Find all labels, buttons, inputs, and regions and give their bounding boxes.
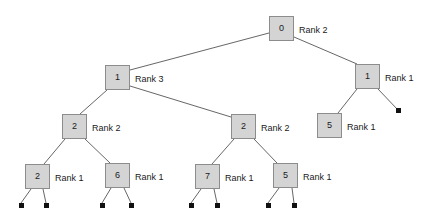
node-key: 2	[72, 122, 77, 131]
tree-node[interactable]: 1	[355, 64, 380, 89]
node-key: 2	[241, 122, 246, 131]
tree-edge	[191, 189, 201, 203]
node-key: 5	[327, 121, 332, 130]
tree-node[interactable]: 7	[195, 164, 220, 189]
leaf-node	[189, 203, 194, 208]
leaf-node	[396, 108, 401, 113]
node-key: 2	[35, 172, 40, 181]
tree-node[interactable]: 2	[25, 164, 50, 189]
tree-edge	[292, 188, 294, 203]
tree-edge	[254, 139, 277, 163]
node-key: 6	[115, 171, 120, 180]
tree-edge	[294, 37, 357, 64]
node-key: 1	[365, 72, 370, 81]
node-rank-label: Rank 2	[299, 26, 328, 35]
node-rank-label: Rank 2	[261, 124, 290, 133]
tree-edge	[124, 188, 131, 203]
tree-edge	[338, 89, 357, 113]
leaf-node	[19, 203, 24, 208]
tree-node[interactable]: 2	[231, 114, 256, 139]
tree-node[interactable]: 5	[273, 163, 298, 188]
leaf-node	[215, 203, 220, 208]
node-key: 5	[283, 171, 288, 180]
node-rank-label: Rank 1	[225, 174, 254, 183]
node-rank-label: Rank 1	[303, 173, 332, 182]
leaf-node	[44, 203, 49, 208]
tree-edge	[214, 189, 217, 203]
leaf-node	[100, 203, 105, 208]
tree-node[interactable]: 2	[62, 114, 87, 139]
tree-edge	[102, 188, 111, 203]
node-key: 0	[279, 24, 284, 33]
node-rank-label: Rank 2	[92, 124, 121, 133]
node-rank-label: Rank 1	[55, 174, 84, 183]
tree-edge	[130, 33, 269, 70]
node-key: 7	[205, 172, 210, 181]
tree-node[interactable]: 5	[317, 113, 342, 138]
node-rank-label: Rank 1	[347, 123, 376, 132]
tree-edge	[130, 86, 231, 117]
tree-edge	[80, 90, 107, 114]
node-rank-label: Rank 3	[135, 75, 164, 84]
leaf-node	[266, 203, 271, 208]
leaf-node	[292, 203, 297, 208]
tree-edge	[212, 139, 234, 164]
tree-edge	[268, 188, 279, 203]
tree-diagram-canvas: 0Rank 21Rank 31Rank 12Rank 22Rank 25Rank…	[0, 0, 430, 221]
tree-edge	[43, 189, 46, 203]
node-rank-label: Rank 1	[385, 74, 414, 83]
node-rank-label: Rank 1	[135, 173, 164, 182]
leaf-node	[129, 203, 134, 208]
tree-node[interactable]: 1	[105, 65, 130, 90]
tree-edge	[21, 189, 31, 203]
tree-edge	[378, 89, 398, 110]
tree-edge	[44, 139, 65, 164]
tree-node[interactable]: 0	[269, 16, 294, 41]
tree-edge	[85, 139, 110, 163]
tree-node[interactable]: 6	[105, 163, 130, 188]
node-key: 1	[115, 73, 120, 82]
